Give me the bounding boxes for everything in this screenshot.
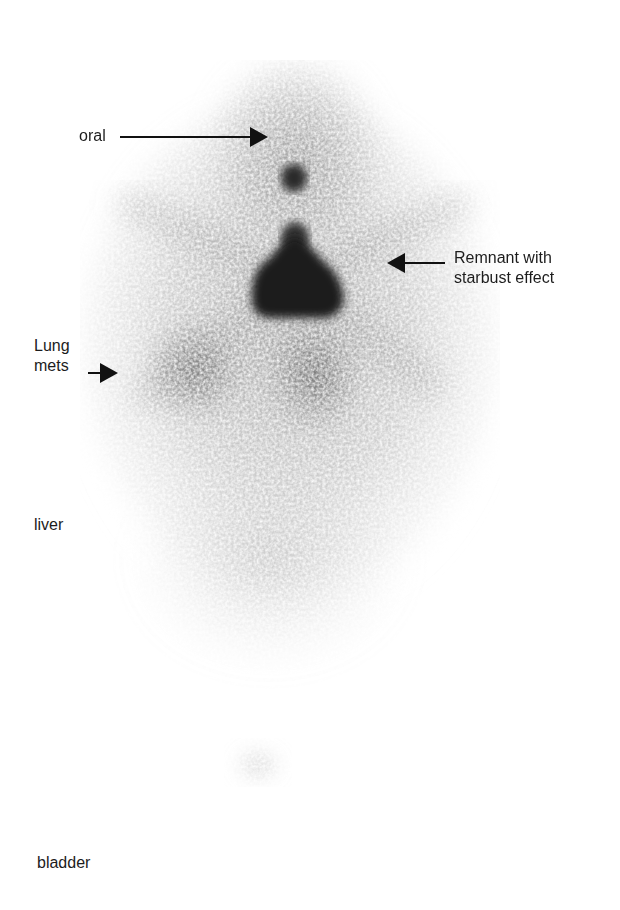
arrow-right-icon (100, 363, 118, 383)
annotation-label-oral: oral (79, 126, 106, 146)
arrow-line-remnant (403, 262, 445, 264)
arrow-line-oral (120, 136, 252, 138)
scan-figure: oral Remnant with starbust effect Lung m… (0, 0, 620, 910)
annotation-label-remnant: Remnant with starbust effect (454, 248, 554, 288)
annotation-label-liver: liver (34, 515, 63, 535)
arrow-right-icon (250, 127, 268, 147)
annotation-label-bladder: bladder (37, 853, 90, 873)
annotation-label-lung-mets: Lung mets (34, 336, 70, 376)
